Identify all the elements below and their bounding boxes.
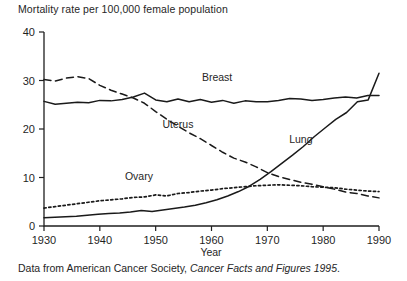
x-tick-label: 1960 (199, 234, 223, 246)
series-line-uterus (44, 77, 379, 198)
y-axis-ticks: 010203040 (23, 26, 44, 232)
x-axis-ticks: 1930194019501960197019801990 (32, 226, 391, 246)
chart-plot-area: 010203040 1930194019501960197019801990 B… (0, 0, 407, 281)
axes-group: 010203040 1930194019501960197019801990 (23, 26, 391, 246)
y-tick-label: 10 (23, 172, 35, 184)
y-tick-label: 40 (23, 26, 35, 38)
series-line-breast (44, 93, 379, 104)
x-tick-label: 1950 (143, 234, 167, 246)
series-label-group: BreastUterusOvaryLung (125, 71, 313, 182)
y-tick-label: 20 (23, 123, 35, 135)
series-label-breast: Breast (202, 71, 232, 83)
caption-suffix: . (337, 262, 340, 274)
series-label-ovary: Ovary (125, 170, 154, 182)
series-label-lung: Lung (289, 133, 313, 145)
axis-lines (44, 32, 379, 226)
caption-prefix: Data from American Cancer Society, (18, 262, 190, 274)
series-label-uterus: Uterus (163, 118, 194, 130)
x-tick-label: 1940 (88, 234, 112, 246)
x-tick-label: 1930 (32, 234, 56, 246)
data-series-group (44, 73, 379, 218)
mortality-rate-line-chart: Mortality rate per 100,000 female popula… (0, 0, 407, 281)
y-tick-label: 30 (23, 75, 35, 87)
x-tick-label: 1980 (311, 234, 335, 246)
y-tick-label: 0 (29, 220, 35, 232)
caption-italic-title: Cancer Facts and Figures 1995 (190, 262, 337, 274)
chart-source-caption: Data from American Cancer Society, Cance… (18, 262, 340, 274)
x-tick-label: 1990 (367, 234, 391, 246)
x-tick-label: 1970 (255, 234, 279, 246)
x-axis-label: Year (200, 246, 222, 258)
